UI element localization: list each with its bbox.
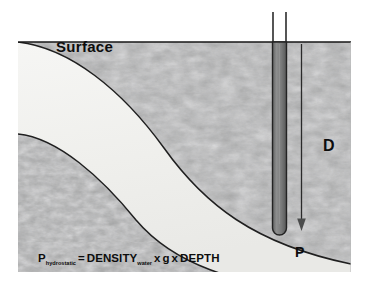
formula-density-subscript: water [137, 260, 152, 266]
surface-label: Surface [56, 38, 113, 55]
pressure-point-label-p: P [295, 244, 305, 260]
formula-equals: = [78, 252, 85, 264]
depth-label-d: D [323, 137, 335, 155]
hydrostatic-pressure-formula: Phydrostatic=DENSITYwaterxgxDEPTH [38, 253, 220, 265]
screenshot-canvas: Surface D P Phydrostatic=DENSITYwaterxgx… [0, 0, 369, 284]
formula-pressure-symbol: P [38, 252, 46, 264]
well-pipe [273, 12, 287, 235]
formula-gravity-symbol: g [162, 252, 169, 264]
formula-depth-symbol: DEPTH [180, 252, 219, 264]
hydrostatic-pressure-diagram: Surface D P Phydrostatic=DENSITYwaterxgx… [18, 12, 351, 272]
formula-pressure-subscript: hydrostatic [46, 260, 76, 266]
formula-density-symbol: DENSITY [87, 252, 138, 264]
